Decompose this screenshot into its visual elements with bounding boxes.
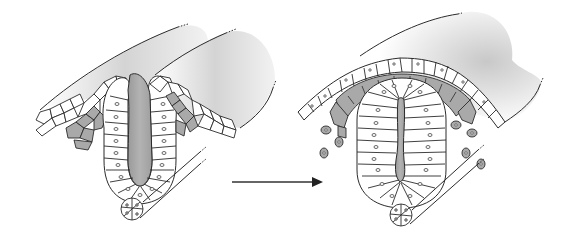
- neural-groove-lumen: [128, 74, 152, 186]
- neural-groove-stage: [36, 24, 276, 220]
- neurulation-diagram: [0, 0, 571, 240]
- neural-tube-stage: [298, 12, 543, 226]
- notochord-stage-2: [390, 204, 412, 226]
- transition-arrow: [232, 177, 323, 187]
- arrow-head-icon: [312, 177, 323, 187]
- notochord: [121, 198, 143, 220]
